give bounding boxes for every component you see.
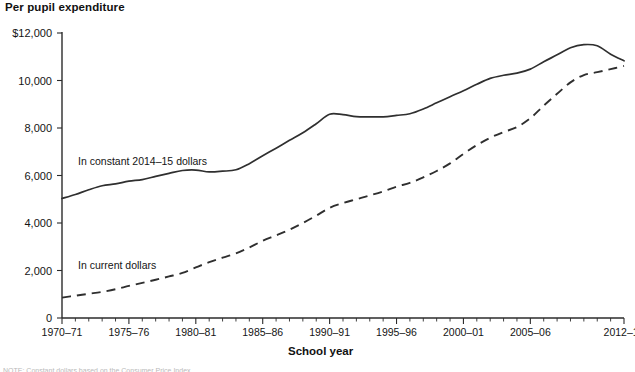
chart-figure: Per pupil expenditure 02,0004,0006,0008,… (0, 0, 635, 372)
line-chart-plot: 02,0004,0006,0008,00010,000$12,000 1970–… (0, 0, 635, 372)
series-line-constant-dollars (62, 44, 624, 198)
x-tick-label: 2005–06 (510, 326, 551, 338)
y-axis-ticks (57, 33, 62, 318)
y-tick-label: 0 (46, 312, 52, 324)
x-tick-label: 2012–13 (604, 326, 635, 338)
y-tick-label: 2,000 (24, 265, 52, 277)
x-axis-title: School year (288, 345, 353, 357)
series-label-constant-dollars: In constant 2014–15 dollars (78, 155, 207, 167)
x-tick-label: 1995–96 (376, 326, 417, 338)
x-axis-tick-labels: 1970–711975–761980–811985–861990–911995–… (42, 326, 635, 338)
y-axis-tick-labels: 02,0004,0006,0008,00010,000$12,000 (12, 27, 52, 324)
x-tick-label: 1970–71 (42, 326, 83, 338)
y-tick-label: 8,000 (24, 122, 52, 134)
series-label-current-dollars: In current dollars (78, 259, 156, 271)
y-tick-label: 6,000 (24, 170, 52, 182)
x-tick-label: 1975–76 (108, 326, 149, 338)
y-tick-label: 4,000 (24, 217, 52, 229)
footnote-clipped: NOTE: Constant dollars based on the Cons… (3, 364, 303, 372)
x-tick-label: 1985–86 (242, 326, 283, 338)
y-tick-label: 10,000 (18, 75, 52, 87)
y-tick-label: $12,000 (12, 27, 52, 39)
x-tick-label: 1990–91 (309, 326, 350, 338)
x-tick-label: 1980–81 (175, 326, 216, 338)
x-axis-ticks (62, 318, 624, 324)
x-tick-label: 2000–01 (443, 326, 484, 338)
